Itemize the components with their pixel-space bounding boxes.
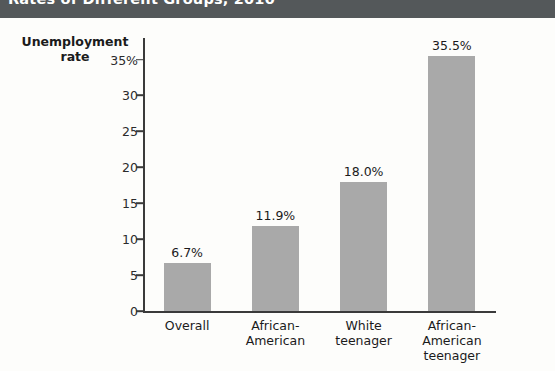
x-axis-category-label: Overall	[165, 318, 210, 333]
x-axis-category-label: African- American teenager	[422, 318, 482, 363]
x-axis-category-label: White teenager	[335, 318, 392, 348]
bar	[340, 182, 387, 311]
y-axis-tick-label: 15	[96, 196, 138, 211]
plot-area: Unemployment rate 35%302520151050 6.7%11…	[0, 18, 555, 371]
y-axis-tick-label: 35%	[96, 52, 138, 67]
y-axis-tick-label: 5	[96, 268, 138, 283]
y-axis-tick-label: 0	[96, 304, 138, 319]
chart-page: Rates of Different Groups, 2010 Unemploy…	[0, 0, 555, 371]
y-axis-tick-label: 10	[96, 232, 138, 247]
x-axis-category-label: African- American	[246, 318, 306, 348]
x-axis-line	[143, 311, 496, 313]
bar	[252, 226, 299, 311]
bar	[428, 56, 475, 311]
chart-title: Rates of Different Groups, 2010	[8, 0, 275, 7]
y-axis-tick-label: 20	[96, 160, 138, 175]
bars-layer	[143, 38, 496, 311]
header-band: Rates of Different Groups, 2010	[0, 0, 555, 18]
y-axis-tick-label: 30	[96, 88, 138, 103]
y-axis-tick-label: 25	[96, 124, 138, 139]
bar-value-label: 18.0%	[344, 164, 384, 179]
bar-value-label: 35.5%	[432, 38, 472, 53]
bar-value-label: 11.9%	[256, 208, 296, 223]
bar-value-label: 6.7%	[171, 245, 203, 260]
bar	[164, 263, 211, 311]
